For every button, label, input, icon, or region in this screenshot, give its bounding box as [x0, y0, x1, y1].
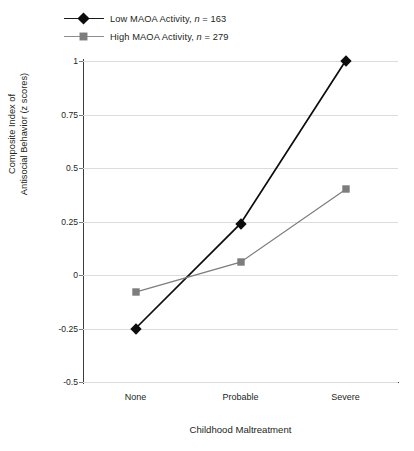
y-axis-title: Composite Index of Antisocial Behavior (…	[6, 54, 30, 214]
y-axis-tick-label: 0	[73, 270, 78, 280]
legend-item-low-maoa: Low MAOA Activity, n = 163	[64, 10, 364, 27]
y-axis-tick-labels: 10.750.50.250-0.25-0.5	[48, 61, 78, 382]
series-line-square	[136, 189, 346, 292]
square-marker-icon	[80, 33, 88, 41]
y-axis-tick-label: -0.5	[63, 377, 78, 387]
legend-key-high-maoa	[64, 30, 104, 44]
y-axis-tick-label: -0.25	[58, 324, 78, 334]
x-axis-tick-labels: NoneProbableSevere	[83, 392, 398, 406]
legend-label-low-maoa: Low MAOA Activity, n = 163	[110, 14, 226, 24]
y-axis-tick-label: 0.25	[61, 217, 78, 227]
gridline	[83, 382, 398, 383]
legend-label-high-maoa-tail: = 279	[202, 32, 229, 42]
y-axis-title-line1: Composite Index of	[7, 94, 17, 174]
data-point-square	[132, 288, 139, 295]
y-axis-title-line2: Antisocial Behavior (z scores)	[18, 54, 30, 214]
y-axis-tick-label: 0.5	[66, 163, 78, 173]
chart-figure: Low MAOA Activity, n = 163 High MAOA Act…	[0, 0, 414, 451]
y-axis-tick-label: 0.75	[61, 110, 78, 120]
legend-label-low-maoa-text: Low MAOA Activity,	[110, 14, 194, 24]
x-axis-tick-label: Probable	[222, 392, 258, 402]
legend-label-high-maoa-text: High MAOA Activity,	[110, 32, 197, 42]
data-point-square	[237, 258, 244, 265]
plot-area	[83, 61, 398, 382]
legend-label-high-maoa: High MAOA Activity, n = 279	[110, 32, 229, 42]
x-axis-tick-label: None	[125, 392, 147, 402]
y-axis-tick-label: 1	[73, 56, 78, 66]
legend-key-low-maoa	[64, 12, 104, 26]
x-axis-tick-label: Severe	[331, 392, 360, 402]
x-axis-title: Childhood Maltreatment	[83, 424, 398, 435]
data-point-square	[342, 186, 349, 193]
diamond-marker-icon	[77, 12, 89, 24]
series-line-diamond	[136, 61, 346, 329]
y-axis-tick	[79, 382, 83, 383]
chart-legend: Low MAOA Activity, n = 163 High MAOA Act…	[64, 10, 364, 46]
legend-label-low-maoa-tail: = 163	[200, 14, 227, 24]
legend-item-high-maoa: High MAOA Activity, n = 279	[64, 28, 364, 45]
